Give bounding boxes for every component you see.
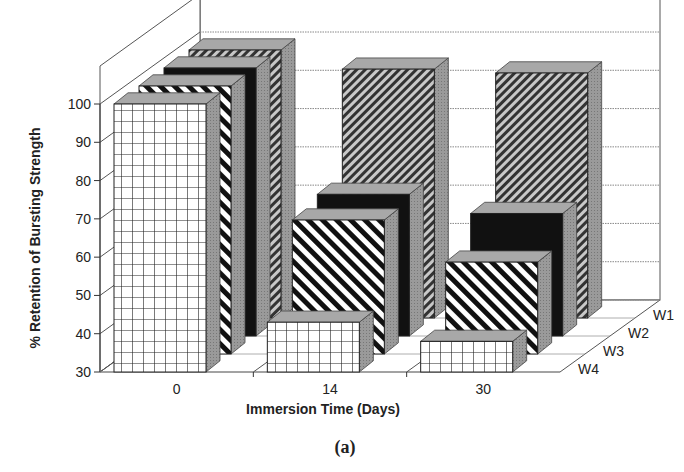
- bar-w4-day-30: [421, 330, 527, 372]
- y-tick-label: 50: [75, 287, 91, 303]
- bars-group: [114, 39, 602, 372]
- y-tick-label: 30: [75, 364, 91, 380]
- x-tick-label: 14: [322, 381, 338, 397]
- y-tick-label: 100: [68, 96, 92, 112]
- depth-label-w4: W4: [578, 361, 599, 377]
- bar-w4-day-14: [267, 311, 373, 372]
- bar-w4-day-0: [114, 93, 220, 372]
- x-tick-label: 30: [476, 381, 492, 397]
- y-tick-label: 70: [75, 211, 91, 227]
- y-tick-label: 90: [75, 134, 91, 150]
- bar-chart-3d: 30405060708090100W1W2W3W401430% Retentio…: [0, 0, 684, 472]
- figure-caption: (a): [335, 437, 356, 458]
- depth-label-w1: W1: [653, 307, 674, 323]
- x-tick-label: 0: [173, 381, 181, 397]
- depth-label-w3: W3: [603, 343, 624, 359]
- y-tick-label: 80: [75, 173, 91, 189]
- y-axis-title: % Retention of Bursting Strength: [27, 128, 43, 349]
- y-tick-label: 60: [75, 249, 91, 265]
- depth-label-w2: W2: [628, 325, 649, 341]
- y-tick-label: 40: [75, 326, 91, 342]
- x-axis-title: Immersion Time (Days): [246, 401, 400, 417]
